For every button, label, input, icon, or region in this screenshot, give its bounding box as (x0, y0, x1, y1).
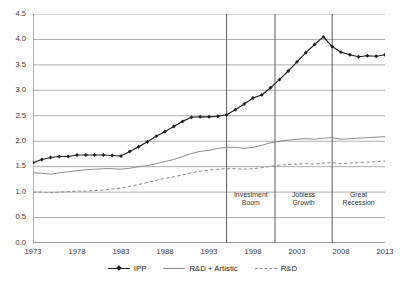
y-tick-label: 1.5 (0, 162, 26, 170)
y-tick-label: 2.5 (0, 112, 26, 120)
data-point-marker (119, 154, 123, 158)
x-tick-label: 1988 (145, 248, 185, 256)
x-tick-label: 1983 (101, 248, 141, 256)
legend-item-rd: R&D (255, 264, 297, 273)
x-tick-label: 1998 (233, 248, 273, 256)
region-label-line2: Growth (275, 199, 332, 207)
divider-lines (227, 14, 333, 243)
legend-label-rd-artistic: R&D + Artistic (189, 264, 237, 273)
y-tick-label: 4.5 (0, 10, 26, 18)
data-point-marker (383, 53, 385, 57)
legend-swatch-rd-artistic (163, 265, 185, 273)
plot-area (33, 14, 385, 243)
data-point-marker (365, 54, 369, 58)
y-tick-label: 3.5 (0, 61, 26, 69)
legend-swatch-ipp (108, 265, 130, 273)
data-point-marker (33, 161, 35, 165)
data-point-marker (216, 114, 220, 118)
data-point-marker (101, 153, 105, 157)
x-tick-label: 1973 (13, 248, 53, 256)
data-point-marker (128, 149, 132, 153)
x-tick-label: 2008 (321, 248, 361, 256)
data-point-marker (84, 153, 88, 157)
data-point-marker (110, 154, 114, 158)
chart-figure: 0.00.51.01.52.02.53.03.54.04.5 197319781… (0, 0, 405, 290)
y-tick-label: 1.0 (0, 188, 26, 196)
x-tick-label: 1978 (57, 248, 97, 256)
y-tick-label: 0.0 (0, 239, 26, 247)
x-tick-label: 2003 (277, 248, 317, 256)
data-point-marker (40, 158, 44, 162)
data-point-marker (57, 155, 61, 159)
legend-label-rd: R&D (281, 264, 297, 273)
legend-item-rd-artistic: R&D + Artistic (163, 264, 237, 273)
y-tick-label: 4.0 (0, 35, 26, 43)
chart-canvas (33, 14, 385, 243)
data-point-marker (66, 155, 70, 159)
region-label: JoblessGrowth (275, 191, 332, 208)
data-point-marker (49, 156, 53, 160)
x-tick-label: 1993 (189, 248, 229, 256)
y-tick-label: 0.5 (0, 213, 26, 221)
region-label-line2: Boom (227, 199, 275, 207)
legend-item-ipp: IPP (108, 264, 147, 273)
region-label-line1: Great (332, 191, 385, 199)
data-point-marker (93, 153, 97, 157)
region-label-line1: Investment (227, 191, 275, 199)
y-tick-label: 2.0 (0, 137, 26, 145)
region-label-line1: Jobless (275, 191, 332, 199)
legend-label-ipp: IPP (134, 264, 147, 273)
data-point-marker (374, 54, 378, 58)
chart-legend: IPP R&D + Artistic R&D (0, 264, 405, 273)
data-point-marker (75, 153, 79, 157)
legend-swatch-rd (255, 265, 277, 273)
x-tick-label: 2013 (365, 248, 405, 256)
region-label: InvestmentBoom (227, 191, 275, 208)
region-label: GreatRecession (332, 191, 385, 208)
region-label-line2: Recession (332, 199, 385, 207)
data-point-marker (357, 55, 361, 59)
y-tick-label: 3.0 (0, 86, 26, 94)
data-point-marker (348, 53, 352, 57)
